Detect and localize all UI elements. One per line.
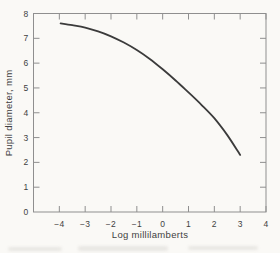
plot-border [34, 14, 267, 213]
x-tick-label: −4 [54, 219, 64, 229]
pupil-diameter-figure: −4−3−2−101234012345678 Log millilamberts… [0, 0, 280, 253]
y-tick-label: 6 [23, 58, 28, 68]
x-tick-label: 0 [160, 219, 165, 229]
y-tick-label: 0 [23, 207, 28, 217]
x-tick-label: −2 [106, 219, 116, 229]
x-tick-label: 3 [238, 219, 243, 229]
data-curve [61, 23, 241, 155]
chart-canvas: −4−3−2−101234012345678 [0, 0, 280, 253]
y-axis-title: Pupil diameter, mm [3, 70, 14, 157]
y-tick-label: 3 [23, 133, 28, 143]
y-tick-label: 1 [23, 182, 28, 192]
x-tick-label: −1 [132, 219, 142, 229]
x-tick-label: 4 [263, 219, 268, 229]
x-tick-label: −3 [80, 219, 90, 229]
y-tick-label: 8 [23, 9, 28, 19]
scan-artifact [8, 247, 62, 251]
y-tick-label: 7 [23, 33, 28, 43]
scan-artifact [188, 246, 258, 250]
y-tick-label: 2 [23, 157, 28, 167]
scan-artifact [78, 246, 168, 251]
x-axis-title: Log millilamberts [112, 229, 188, 240]
x-tick-label: 2 [212, 219, 217, 229]
y-tick-label: 4 [23, 108, 28, 118]
y-tick-label: 5 [23, 83, 28, 93]
x-tick-label: 1 [186, 219, 191, 229]
